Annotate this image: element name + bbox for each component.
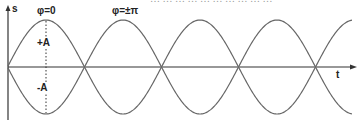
y-axis-label: s	[12, 4, 18, 14]
caption-fragment: … … … … … … … … … …	[150, 0, 273, 4]
plus-amplitude-label: +A	[37, 38, 50, 48]
y-axis-arrow-icon	[6, 5, 11, 11]
phase-pi-label: φ=±π	[112, 6, 138, 16]
wave-diagram	[0, 0, 361, 122]
phase-zero-label: φ=0	[37, 6, 56, 16]
x-axis-label: t	[336, 70, 339, 80]
x-axis-arrow-icon	[350, 65, 357, 70]
minus-amplitude-label: -A	[37, 83, 48, 93]
